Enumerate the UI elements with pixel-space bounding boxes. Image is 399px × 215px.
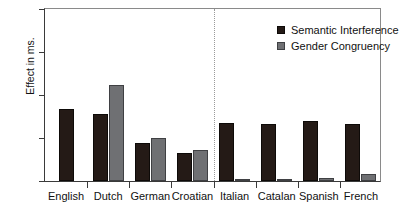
y-axis-title: Effect in ms. (24, 6, 36, 126)
bar-semantic-interference (261, 124, 276, 181)
bar-semantic-interference (303, 121, 318, 181)
legend-item-semantic-interference: Semantic Interference (277, 23, 399, 37)
y-axis-tick-mark (39, 181, 44, 182)
y-axis-tick-mark (39, 95, 44, 96)
x-axis-tick-label: English (48, 190, 84, 202)
bar-gender-congruency (361, 174, 376, 181)
bar-semantic-interference (345, 124, 360, 181)
y-axis-tick-mark (39, 9, 44, 10)
bar-semantic-interference (93, 114, 108, 181)
y-axis-tick-mark (39, 52, 44, 53)
bar-gender-congruency (151, 138, 166, 181)
x-axis-tick-label: French (344, 190, 378, 202)
legend-swatch-icon-gender-congruency (277, 42, 285, 50)
bar-semantic-interference (177, 153, 192, 181)
bar-gender-congruency (319, 178, 334, 181)
bar-semantic-interference (135, 143, 150, 181)
x-axis-tick-mark (340, 182, 341, 188)
chart-legend: Semantic Interference Gender Congruency (277, 23, 399, 55)
bar-semantic-interference (219, 123, 234, 181)
x-axis-tick-mark (87, 182, 88, 188)
bar-gender-congruency (193, 150, 208, 181)
x-axis-tick-mark (129, 182, 130, 188)
legend-item-gender-congruency: Gender Congruency (277, 39, 399, 53)
legend-swatch-icon-semantic-interference (277, 26, 285, 34)
x-axis-tick-label: Spanish (299, 190, 339, 202)
x-axis-tick-label: Dutch (94, 190, 123, 202)
legend-label-gender-congruency: Gender Congruency (291, 41, 390, 52)
x-axis-tick-label: Catalan (258, 190, 296, 202)
x-axis-tick-label: Croatian (172, 190, 214, 202)
bar-gender-congruency (235, 179, 250, 181)
x-axis-tick-mark (256, 182, 257, 188)
x-axis-tick-mark (171, 182, 172, 188)
y-axis-tick-mark (39, 138, 44, 139)
x-axis-tick-label: Italian (220, 190, 249, 202)
x-axis-tick-label: German (130, 190, 170, 202)
x-axis-tick-mark (214, 182, 215, 188)
group-divider (214, 9, 215, 181)
bar-semantic-interference (59, 109, 74, 181)
plot-area: Semantic Interference Gender Congruency (44, 8, 381, 182)
x-axis-tick-mark (298, 182, 299, 188)
bar-gender-congruency (277, 179, 292, 181)
legend-label-semantic-interference: Semantic Interference (291, 25, 399, 36)
bar-gender-congruency (109, 85, 124, 181)
